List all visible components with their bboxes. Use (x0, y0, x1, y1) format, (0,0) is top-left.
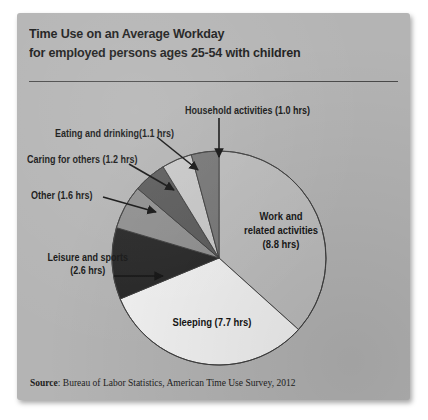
label-work-and-related-activities: Work and related activities (8.8 hrs) (229, 209, 333, 251)
source-text: Bureau of Labor Statistics, American Tim… (63, 378, 296, 388)
pie-chart-svg (17, 13, 410, 400)
label-caring-for-others: Caring for others (1.2 hrs) (27, 154, 138, 167)
label-sleeping: Sleeping (7.7 hrs) (154, 315, 271, 329)
pie-chart (17, 13, 410, 400)
screenshot-root: Time Use on an Average Workday for emplo… (0, 0, 428, 420)
label-work-line-3: (8.8 hrs) (229, 237, 333, 251)
label-eating-and-drinking: Eating and drinking(1.1 hrs) (55, 128, 174, 141)
label-other: Other (1.6 hrs) (31, 190, 93, 203)
source-label: Source (30, 378, 58, 388)
source-note: Source: Bureau of Labor Statistics, Amer… (30, 378, 295, 388)
chart-card: Time Use on an Average Workday for emplo… (17, 13, 410, 400)
label-leisure-line-1: Leisure and sports (47, 252, 128, 265)
label-work-line-2: related activities (229, 223, 333, 237)
label-leisure-and-sports: Leisure and sports (2.6 hrs) (47, 252, 128, 277)
label-work-line-1: Work and (229, 209, 333, 223)
label-household-activities: Household activities (1.0 hrs) (185, 105, 310, 118)
label-leisure-line-2: (2.6 hrs) (47, 265, 128, 278)
